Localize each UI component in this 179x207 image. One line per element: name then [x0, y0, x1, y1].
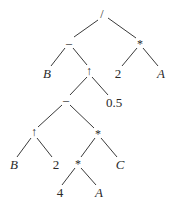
edge [74, 20, 98, 37]
edge [81, 168, 96, 185]
edge [51, 48, 65, 66]
edge [108, 18, 136, 38]
node-leaf-a: A [157, 67, 165, 80]
tree-edges [0, 0, 179, 207]
edge [38, 105, 62, 127]
edge [101, 138, 117, 157]
node-power: ↑ [31, 126, 37, 138]
node-minus: – [66, 37, 72, 49]
node-multiply: * [95, 128, 101, 140]
node-multiply: * [75, 158, 81, 170]
node-leaf-4: 4 [57, 186, 64, 199]
node-multiply: * [137, 38, 143, 50]
edge [62, 168, 75, 185]
node-leaf-2: 2 [115, 67, 122, 80]
node-power: ↑ [86, 65, 92, 77]
node-minus: – [63, 94, 69, 106]
node-leaf-a: A [95, 186, 103, 199]
node-leaf-b: B [43, 67, 51, 80]
edge [143, 48, 158, 66]
edge [122, 48, 137, 66]
edge [17, 138, 31, 157]
node-leaf-2: 2 [53, 158, 60, 171]
node-divide: / [100, 8, 103, 20]
node-leaf-c: C [116, 158, 125, 171]
node-leaf-b: B [10, 158, 18, 171]
edge [81, 138, 95, 157]
edge [70, 77, 87, 95]
edge [73, 48, 87, 65]
edge [92, 77, 108, 95]
node-leaf-0-5: 0.5 [106, 96, 122, 109]
edge [37, 138, 52, 157]
edge [70, 105, 94, 128]
